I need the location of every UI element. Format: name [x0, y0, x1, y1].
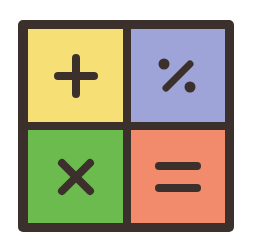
percent-icon: [156, 54, 200, 98]
calculator-icon: [18, 20, 234, 232]
times-icon: [54, 155, 98, 199]
times-tile[interactable]: [28, 130, 123, 223]
percent-tile[interactable]: [131, 29, 225, 122]
plus-tile[interactable]: [28, 29, 123, 122]
equals-icon: [154, 159, 202, 195]
equals-tile[interactable]: [131, 130, 225, 223]
plus-icon: [54, 54, 98, 98]
